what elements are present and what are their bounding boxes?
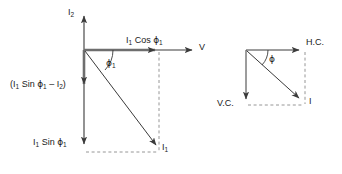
i1-resultant-vector <box>85 51 156 145</box>
right-diagram-group <box>246 50 305 105</box>
label-current-difference: (I1 Sin ϕ1 – I2) <box>10 80 66 89</box>
phasor-diagram-figure: I2 I1 Cos ϕ1 V ϕ1 (I1 Sin ϕ1 – I2) I1 Si… <box>0 0 342 174</box>
label-phi-angle: ϕ <box>269 55 275 64</box>
label-phi1-angle: ϕ1 <box>106 59 116 68</box>
label-i2-axis: I2 <box>68 8 74 17</box>
label-horizontal-component: H.C. <box>306 38 324 47</box>
phi-angle-arc <box>262 50 268 65</box>
label-voltage-v: V <box>199 43 205 52</box>
label-i-resultant: I <box>309 97 312 106</box>
label-i1-resultant: I1 <box>162 143 168 152</box>
label-i1-cos-phi1: I1 Cos ϕ1 <box>126 36 163 45</box>
label-i1-sin-phi1: I1 Sin ϕ1 <box>33 138 67 147</box>
label-vertical-component: V.C. <box>217 99 234 108</box>
